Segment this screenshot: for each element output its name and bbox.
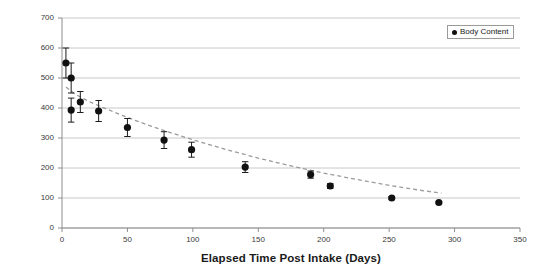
data-point — [68, 74, 75, 81]
y-tick-label: 500 — [28, 73, 54, 82]
x-tick-label: 200 — [309, 235, 339, 244]
y-tick-label: 400 — [28, 103, 54, 112]
legend-item-label: Body Content — [460, 28, 508, 36]
y-tick-label: 0 — [28, 223, 54, 232]
y-tick-label: 600 — [28, 43, 54, 52]
x-tick-label: 250 — [374, 235, 404, 244]
chart-container: Body Content (nCi) Elapsed Time Post Int… — [0, 0, 541, 276]
data-point — [242, 164, 249, 171]
x-tick-label: 0 — [47, 235, 77, 244]
data-point — [188, 146, 195, 153]
data-point — [160, 137, 167, 144]
data-point — [388, 194, 395, 201]
legend-marker-icon — [452, 30, 457, 35]
y-tick-label: 700 — [28, 13, 54, 22]
data-point — [124, 124, 131, 131]
data-point — [327, 182, 334, 189]
chart-legend: Body Content — [447, 25, 514, 39]
data-point — [435, 199, 442, 206]
x-tick-label: 50 — [112, 235, 142, 244]
data-point — [307, 171, 314, 178]
data-point — [95, 107, 102, 114]
x-tick-label: 350 — [505, 235, 535, 244]
data-point — [68, 107, 75, 114]
x-axis-title: Elapsed Time Post Intake (Days) — [62, 252, 520, 264]
y-tick-label: 300 — [28, 133, 54, 142]
x-tick-label: 300 — [440, 235, 470, 244]
y-tick-label: 100 — [28, 193, 54, 202]
trendline — [66, 87, 442, 193]
y-tick-label: 200 — [28, 163, 54, 172]
data-point — [77, 98, 84, 105]
x-tick-label: 150 — [243, 235, 273, 244]
x-tick-label: 100 — [178, 235, 208, 244]
